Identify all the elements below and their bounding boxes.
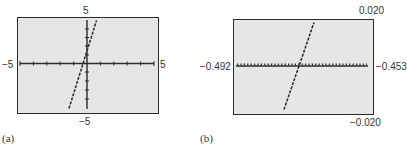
caption-b: (b) bbox=[200, 133, 213, 144]
y-min-label-b: −0.020 bbox=[350, 118, 381, 128]
x-min-label-b: −0.492 bbox=[200, 62, 231, 72]
y-max-label-b: 0.020 bbox=[359, 6, 384, 16]
x-max-label-b: −0.453 bbox=[376, 62, 407, 72]
